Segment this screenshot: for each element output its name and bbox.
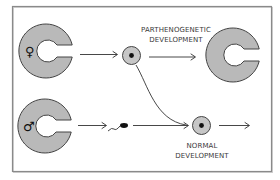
zygote-cell [193,117,211,135]
arrow-male-to-sperm [78,123,107,129]
egg-cell [123,47,141,65]
arrow-female-to-egg [80,52,118,58]
normal-label-line2: DEVELOPMENT [175,152,229,160]
zygote-nucleus [199,123,204,128]
sperm-head [120,123,128,128]
development-diagram: ♀ PARTHENOGENETIC DEVELOPMENT ♂ [0,0,280,180]
egg-nucleus [129,53,134,58]
female-embryo: ♀ [19,24,72,78]
arrow-normal-onward [219,123,250,129]
female-symbol-icon: ♀ [25,44,35,59]
parthenogenetic-label-line2: DEVELOPMENT [149,36,203,44]
male-embryo: ♂ [18,99,71,153]
sperm-cell [108,123,128,131]
parthenogenetic-embryo [206,28,259,82]
male-symbol-icon: ♂ [23,119,35,134]
normal-label-line1: NORMAL [187,142,218,150]
arrow-egg-to-zygote [136,65,186,125]
arrow-parthenogenetic [149,54,196,60]
parthenogenetic-label-line1: PARTHENOGENETIC [141,26,211,34]
